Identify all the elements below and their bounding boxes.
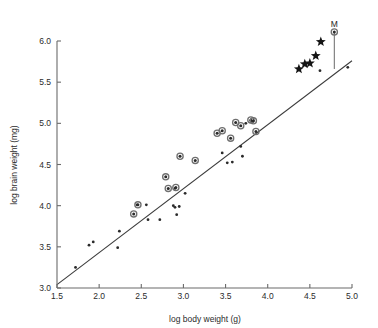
data-point — [116, 246, 119, 249]
data-point — [175, 213, 178, 216]
x-tick-label: 2.5 — [135, 291, 147, 301]
data-point — [88, 244, 91, 247]
data-point — [234, 121, 237, 124]
data-point — [174, 186, 177, 189]
x-tick-label: 5.0 — [346, 291, 358, 301]
x-tick-label: 4.5 — [304, 291, 316, 301]
data-point — [92, 240, 95, 243]
data-points-major — [131, 29, 338, 217]
data-point — [118, 230, 121, 233]
y-tick-label: 4.0 — [39, 201, 51, 211]
data-point — [239, 145, 242, 148]
x-axis: 1.52.02.53.03.54.04.55.0 log body weight… — [51, 284, 358, 324]
data-points-star — [294, 37, 326, 74]
data-point — [254, 130, 257, 133]
annotation-label: M — [331, 19, 338, 29]
plot-area: M — [57, 19, 352, 285]
y-tick-label: 4.5 — [39, 160, 51, 170]
data-point — [174, 206, 177, 209]
data-point — [179, 155, 182, 158]
data-point — [221, 152, 224, 155]
scatter-chart-figure: M 3.03.54.04.55.05.56.0 log brain weight… — [0, 0, 378, 328]
data-point — [147, 218, 150, 221]
data-point-star — [294, 64, 304, 73]
data-point — [74, 266, 77, 269]
chart-canvas: M 3.03.54.04.55.05.56.0 log brain weight… — [0, 0, 378, 328]
data-point — [164, 175, 167, 178]
regression-line — [57, 61, 352, 285]
y-tick-label: 3.0 — [39, 283, 51, 293]
data-point — [229, 137, 232, 140]
data-point — [239, 124, 242, 127]
data-point-star — [316, 37, 326, 46]
data-point — [194, 159, 197, 162]
x-axis-ticks: 1.52.02.53.03.54.04.55.0 — [51, 284, 358, 301]
data-point — [184, 192, 187, 195]
data-point — [231, 161, 234, 164]
data-point — [158, 218, 161, 221]
x-tick-label: 1.5 — [51, 291, 63, 301]
y-axis-ticks: 3.03.54.04.55.05.56.0 — [39, 36, 61, 293]
data-point — [226, 161, 229, 164]
data-point — [178, 205, 181, 208]
data-point — [221, 129, 224, 132]
y-tick-label: 3.5 — [39, 242, 51, 252]
data-point-star — [311, 51, 321, 60]
x-tick-label: 4.0 — [262, 291, 274, 301]
data-point — [136, 203, 139, 206]
y-tick-label: 5.0 — [39, 118, 51, 128]
data-point — [319, 69, 322, 72]
x-tick-label: 3.0 — [178, 291, 190, 301]
data-point — [333, 30, 336, 33]
data-point — [167, 187, 170, 190]
data-point — [252, 119, 255, 122]
y-axis-title: log brain weight (mg) — [9, 125, 19, 205]
data-point — [346, 66, 349, 69]
x-tick-label: 2.0 — [93, 291, 105, 301]
regression-line-segment — [57, 61, 352, 285]
data-point — [145, 203, 148, 206]
x-axis-title: log body weight (g) — [169, 314, 241, 324]
data-point — [216, 132, 219, 135]
y-axis: 3.03.54.04.55.05.56.0 log brain weight (… — [9, 36, 61, 293]
data-point — [132, 212, 135, 215]
data-point — [244, 122, 247, 125]
data-point — [241, 155, 244, 158]
y-tick-label: 6.0 — [39, 36, 51, 46]
y-tick-label: 5.5 — [39, 77, 51, 87]
x-tick-label: 3.5 — [220, 291, 232, 301]
chart-annotations: M — [331, 19, 338, 29]
